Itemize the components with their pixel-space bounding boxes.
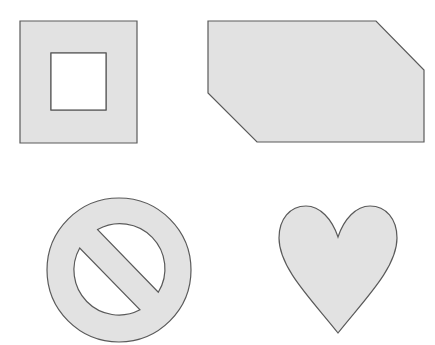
heart-shape	[279, 206, 397, 333]
shapes-canvas	[0, 0, 435, 345]
square-frame-shape	[20, 21, 137, 143]
no-symbol-shape	[47, 198, 191, 342]
snipped-rectangle-shape	[208, 21, 424, 142]
